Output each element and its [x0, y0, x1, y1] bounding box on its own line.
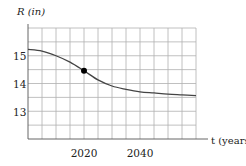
- x-tick-2040: 2040: [127, 147, 154, 159]
- grid: [28, 28, 196, 139]
- y-tick-14: 14: [13, 78, 27, 90]
- y-axis-label: R (in): [16, 6, 45, 17]
- chart: R (in) t (years) 15 14 13 2020 2040: [0, 0, 246, 166]
- highlight-point: [81, 68, 87, 74]
- y-tick-13: 13: [13, 106, 26, 118]
- x-tick-2020: 2020: [71, 147, 98, 159]
- y-tick-15: 15: [13, 50, 26, 62]
- x-axis-label: t (years): [211, 135, 246, 146]
- y-axis-label-text: R (in): [16, 6, 45, 17]
